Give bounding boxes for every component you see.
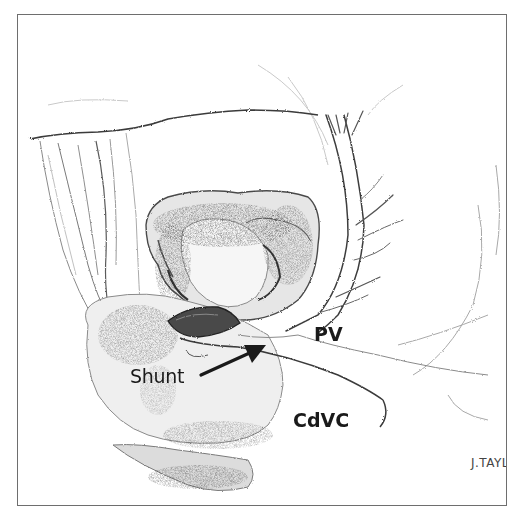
artist-signature: J.TAYL (471, 456, 507, 470)
label-portal-vein: PV (314, 325, 343, 344)
illustration-frame: PV CdVC Shunt J.TAYL (17, 14, 507, 506)
label-caudal-vena-cava: CdVC (293, 411, 349, 430)
label-shunt: Shunt (130, 367, 184, 386)
right-faint-organ (398, 165, 500, 420)
anatomical-sketch (18, 15, 507, 506)
faint-background-strokes (48, 65, 403, 165)
